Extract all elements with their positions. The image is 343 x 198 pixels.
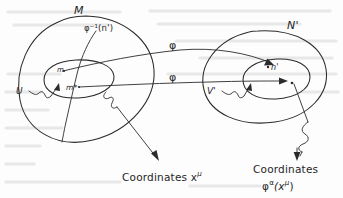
- label-map-upper: φ: [169, 40, 176, 51]
- arrow-upper-phi[interactable]: [63, 49, 274, 71]
- outer-left-oval: [19, 16, 154, 142]
- caption-coords-right-line1: Coordinates: [253, 164, 318, 175]
- arrow-lower-phi[interactable]: [79, 78, 288, 88]
- label-manifold-right: N': [287, 20, 299, 31]
- page-ghosting: [6, 11, 338, 186]
- squiggle-pointer-V-prime: [222, 83, 252, 98]
- caption-coords-right-arg-open: (x: [274, 180, 285, 192]
- label-neighbourhood-left: U: [16, 87, 23, 96]
- point-marker-m-star: [78, 86, 80, 88]
- label-manifold-left: M: [74, 5, 84, 16]
- caption-coords-right-line2: φα(xμ): [262, 179, 294, 191]
- point-marker-n-prime: [267, 66, 269, 68]
- label-point-n-prime: n': [271, 64, 279, 72]
- caption-coords-left: Coordinates xμ: [122, 170, 202, 182]
- outer-right-oval: [203, 31, 327, 123]
- label-map-lower: φ: [169, 72, 176, 83]
- point-marker-image: [291, 82, 294, 85]
- label-point-m: m: [57, 67, 64, 74]
- caption-coords-left-superscript: μ: [197, 169, 202, 178]
- label-neighbourhood-right: V': [207, 87, 216, 96]
- caption-coords-right-arg-close: ): [290, 180, 294, 192]
- figure-canvas: M N' φ⁻¹(n') φ φ m m* n' U V' Coordinate…: [0, 0, 343, 198]
- leader-coords-left: [104, 92, 159, 161]
- label-point-m-star: m*: [66, 84, 77, 92]
- label-preimage: φ⁻¹(n'): [84, 24, 113, 33]
- caption-coords-left-text: Coordinates x: [122, 171, 197, 183]
- leader-coords-right: [294, 84, 309, 161]
